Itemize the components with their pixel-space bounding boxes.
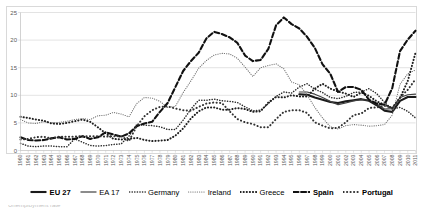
legend-label: Portugal <box>362 188 393 197</box>
x-axis-tick-label: 1976 <box>141 154 147 166</box>
legend-swatch-icon <box>293 188 310 196</box>
series-lines-group <box>21 17 416 146</box>
x-axis-tick-label: 1969 <box>87 154 93 166</box>
x-axis-tick-label: 2007 <box>381 154 387 166</box>
legend-item-spain[interactable]: Spain <box>293 188 333 197</box>
x-axis-tick-label: 1984 <box>203 154 209 166</box>
legend-swatch-icon <box>240 188 257 196</box>
x-axis-tick-label: 2003 <box>350 154 356 166</box>
x-axis-tick-label: 1968 <box>79 154 85 166</box>
legend-item-portugal[interactable]: Portugal <box>343 188 393 197</box>
legend-swatch-icon <box>30 188 47 196</box>
x-axis-tick-label: 1962 <box>33 154 39 166</box>
x-axis-tick-label: 1982 <box>188 154 194 166</box>
x-axis-tick-label: 2000 <box>327 154 333 166</box>
series-line-spain <box>21 17 416 140</box>
x-axis-tick-label: 1994 <box>281 154 287 166</box>
x-axis-tick-label: 2010 <box>405 154 411 166</box>
x-axis-tick-label: 1966 <box>64 154 70 166</box>
series-line-eu-27 <box>299 94 415 112</box>
x-axis-tick-label: 1991 <box>257 154 263 166</box>
chart-container: 0510152025 19601961196219631964196519661… <box>0 0 423 215</box>
legend-item-greece[interactable]: Greece <box>240 188 284 197</box>
legend-label: Germany <box>148 188 179 197</box>
legend-label: EU 27 <box>50 188 71 197</box>
x-axis-tick-label: 1986 <box>219 154 225 166</box>
y-axis-tick-label: 0 <box>14 148 18 154</box>
x-axis-tick-label: 2001 <box>335 154 341 166</box>
x-axis-tick-label: 1971 <box>103 154 109 166</box>
legend-swatch-icon <box>343 188 360 196</box>
x-axis-tick-label: 1983 <box>196 154 202 166</box>
series-line-greece <box>21 53 416 141</box>
legend-label: EA 17 <box>99 188 119 197</box>
legend-item-ireland[interactable]: Ireland <box>188 188 231 197</box>
x-axis-tick-label: 2009 <box>397 154 403 166</box>
legend-label: Spain <box>313 188 334 197</box>
legend-item-germany[interactable]: Germany <box>129 188 180 197</box>
x-axis-tick-label: 1973 <box>118 154 124 166</box>
x-axis-tick-label: 1961 <box>25 154 31 166</box>
chart-svg: 0510152025 19601961196219631964196519661… <box>0 0 423 215</box>
x-axis-tick-label: 1993 <box>273 154 279 166</box>
x-axis-tick-label: 1965 <box>56 154 62 166</box>
x-axis-tick-label: 1978 <box>157 154 163 166</box>
legend-label: Greece <box>259 188 284 197</box>
x-axis-tick-label: 1960 <box>17 154 23 166</box>
legend-label: Ireland <box>208 188 231 197</box>
chart-legend: EU 27EA 17GermanyIrelandGreeceSpainPortu… <box>0 184 423 200</box>
x-axis-tick-label: 1988 <box>234 154 240 166</box>
x-axis-tick-label: 1977 <box>149 154 155 166</box>
x-axis-tick-label: 1999 <box>319 154 325 166</box>
x-axis-tick-label: 1997 <box>304 154 310 166</box>
x-axis-tick-label: 1964 <box>48 154 54 166</box>
x-axis-labels: 1960196119621963196419651966196719681969… <box>17 154 418 166</box>
x-axis-tick-label: 1989 <box>242 154 248 166</box>
y-axis-tick-label: 15 <box>10 65 17 71</box>
caption-text: Unemployment rate <box>8 205 60 208</box>
legend-item-eu-27[interactable]: EU 27 <box>30 188 71 197</box>
x-axis-tick-label: 1987 <box>227 154 233 166</box>
legend-swatch-icon <box>188 188 205 196</box>
legend-swatch-icon <box>80 188 97 196</box>
series-line-ireland <box>21 53 416 129</box>
x-axis-tick-label: 1963 <box>41 154 47 166</box>
x-axis-tick-label: 1980 <box>172 154 178 166</box>
y-axis-tick-label: 20 <box>10 37 17 43</box>
x-axis-tick-label: 1981 <box>180 154 186 166</box>
x-axis-tick-label: 1967 <box>72 154 78 166</box>
x-axis-tick-label: 1972 <box>110 154 116 166</box>
x-axis-tick-label: 1995 <box>288 154 294 166</box>
x-axis-tick-label: 2011 <box>412 154 418 165</box>
x-axis-tick-label: 1979 <box>165 154 171 166</box>
x-axis-tick-label: 1996 <box>296 154 302 166</box>
legend-swatch-icon <box>129 188 146 196</box>
y-axis-tick-label: 25 <box>10 10 17 16</box>
x-axis-tick-label: 1985 <box>211 154 217 166</box>
x-axis-tick-label: 1975 <box>134 154 140 166</box>
x-axis-tick-label: 1990 <box>250 154 256 166</box>
x-axis-tick-label: 2002 <box>343 154 349 166</box>
x-axis-tick-label: 1974 <box>126 154 132 166</box>
x-axis-tick-label: 1992 <box>265 154 271 166</box>
x-axis-tick-label: 2006 <box>374 154 380 166</box>
legend-item-ea-17[interactable]: EA 17 <box>80 188 120 197</box>
x-axis-tick-label: 2004 <box>358 154 364 166</box>
y-axis-labels: 0510152025 <box>10 10 17 154</box>
cropped-caption-sliver: Unemployment rate <box>0 205 423 215</box>
x-axis-tick-label: 1998 <box>312 154 318 166</box>
y-axis-tick-label: 10 <box>10 92 17 98</box>
x-axis-tick-label: 1970 <box>95 154 101 166</box>
x-axis-tick-label: 2005 <box>366 154 372 166</box>
x-axis-tick-label: 2008 <box>389 154 395 166</box>
y-axis-tick-label: 5 <box>14 120 18 126</box>
chart-canvas: 0510152025 19601961196219631964196519661… <box>0 0 423 215</box>
